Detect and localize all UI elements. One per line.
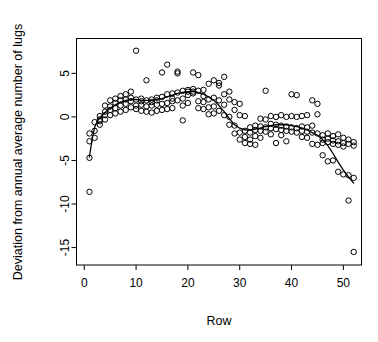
x-tick-label: 30 xyxy=(233,276,247,290)
y-tick-label: -10 xyxy=(58,195,72,213)
y-axis-title: Deviation from annual average number of … xyxy=(11,24,25,280)
x-axis-title-label: Row xyxy=(206,314,232,328)
plot-background xyxy=(0,0,378,342)
y-tick-label: 0 xyxy=(58,113,72,120)
chart-canvas: Deviation from annual average number of … xyxy=(0,0,378,342)
y-axis-title-label: Deviation from annual average number of … xyxy=(11,24,25,280)
x-tick-label: 20 xyxy=(181,276,195,290)
y-tick-label: -15 xyxy=(58,239,72,257)
y-tick-label: 5 xyxy=(58,70,72,77)
x-tick-label: 0 xyxy=(81,276,88,290)
x-tick-label: 40 xyxy=(285,276,299,290)
x-axis-title: Row xyxy=(206,314,232,328)
y-tick-label: -5 xyxy=(58,155,72,166)
x-tick-label: 50 xyxy=(337,276,351,290)
scatter-plot-figure: Deviation from annual average number of … xyxy=(0,0,378,342)
x-tick-label: 10 xyxy=(129,276,143,290)
